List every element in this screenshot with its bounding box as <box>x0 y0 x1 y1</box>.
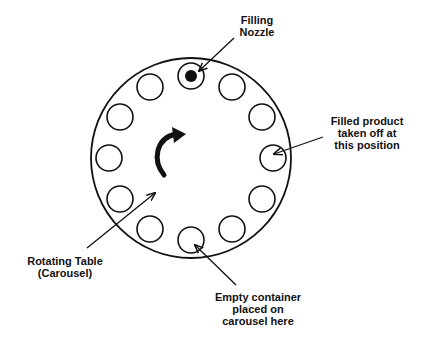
container-slot <box>96 145 122 171</box>
rotating-table-label: Rotating Table (Carousel) <box>27 255 103 279</box>
empty-container-label: Empty container placed on carousel here <box>215 291 301 327</box>
container-slot <box>219 74 245 100</box>
rotating-table <box>91 58 291 258</box>
filled-product-label: Filled product taken off at this positio… <box>331 115 404 151</box>
label-line: this position <box>331 139 404 151</box>
label-line: Filled product <box>331 115 404 127</box>
rotating-table-pointer-arrow <box>87 193 155 248</box>
container-slot <box>107 104 133 130</box>
label-line: Rotating Table <box>27 255 103 267</box>
carousel-filling-diagram <box>0 0 422 341</box>
table-outline <box>91 58 291 258</box>
container-slot <box>249 186 275 212</box>
container-positions <box>96 63 286 253</box>
container-slot <box>260 145 286 171</box>
container-slot <box>107 186 133 212</box>
label-line: carousel here <box>215 315 301 327</box>
pointer-arrows <box>87 38 323 285</box>
container-slot <box>249 104 275 130</box>
label-line: (Carousel) <box>27 267 103 279</box>
label-line: Nozzle <box>240 26 275 38</box>
filling-nozzle-label: Filling Nozzle <box>240 14 275 38</box>
container-slot <box>137 74 163 100</box>
label-line: placed on <box>215 303 301 315</box>
container-slot <box>137 216 163 242</box>
label-line: taken off at <box>331 127 404 139</box>
filling-nozzle-dot <box>185 70 197 82</box>
filled-product-pointer-arrow <box>274 137 323 154</box>
container-slot <box>219 216 245 242</box>
label-line: Empty container <box>215 291 301 303</box>
curved-arrow-clockwise-icon <box>157 127 186 175</box>
label-line: Filling <box>240 14 275 26</box>
